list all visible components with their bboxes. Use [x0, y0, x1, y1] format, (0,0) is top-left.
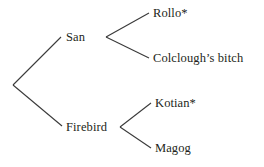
- edge-root-to-san: [13, 37, 61, 85]
- edge-root-to-firebird: [13, 85, 62, 126]
- edge-firebird-to-magog: [120, 127, 151, 148]
- edge-san-to-rollo: [106, 13, 149, 37]
- node-label-magog: Magog: [155, 142, 191, 155]
- node-label-firebird: Firebird: [66, 121, 107, 134]
- node-label-rollo: Rollo*: [153, 7, 188, 20]
- node-label-colcloughs-bitch: Colclough’s bitch: [153, 52, 243, 65]
- edge-san-to-colclough: [106, 37, 149, 58]
- node-label-san: San: [66, 31, 85, 44]
- edge-firebird-to-kotian: [120, 103, 151, 127]
- pedigree-tree-figure: San Firebird Rollo* Colclough’s bitch Ko…: [0, 0, 264, 167]
- tree-edges-layer: [0, 0, 264, 167]
- node-label-kotian: Kotian*: [155, 97, 196, 110]
